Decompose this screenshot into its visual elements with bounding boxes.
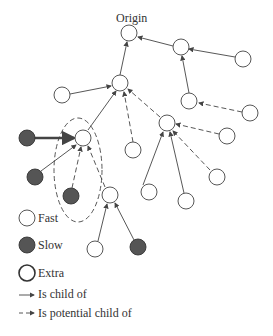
svg-text:Extra: Extra (38, 266, 65, 280)
legend: Fast Slow Extra Is child of Is potential… (19, 210, 132, 320)
svg-text:Fast: Fast (38, 211, 59, 225)
origin-node (121, 25, 137, 41)
tree-diagram: Origin (0, 0, 273, 336)
origin-label: Origin (116, 11, 147, 25)
potential-edges (54, 89, 242, 222)
nodes (54, 25, 258, 257)
svg-text:Is child of: Is child of (38, 287, 87, 301)
svg-text:Is potential child of: Is potential child of (38, 306, 132, 320)
svg-text:Slow: Slow (38, 238, 63, 252)
slow-legend-icon (19, 237, 35, 253)
fast-legend-icon (19, 210, 35, 226)
extra-legend-icon (19, 265, 35, 281)
edges (27, 37, 235, 241)
